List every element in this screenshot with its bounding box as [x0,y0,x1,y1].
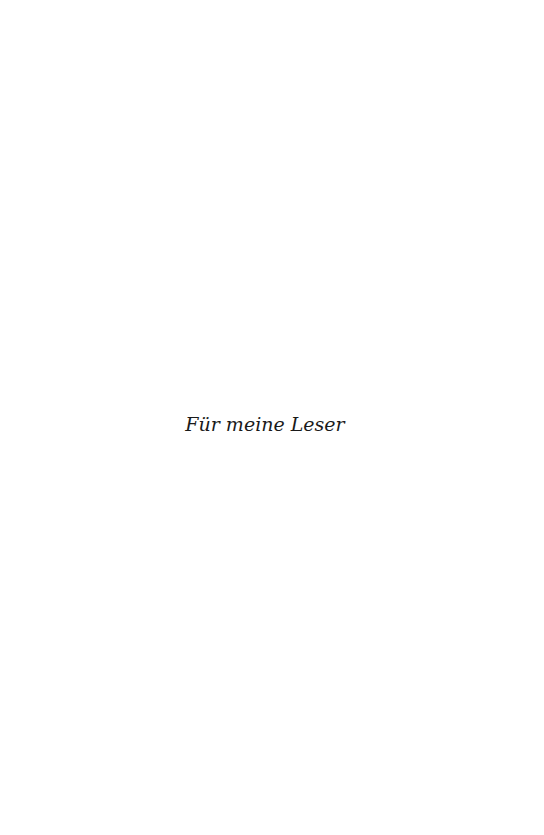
dedication-text: Für meine Leser [0,410,530,438]
book-page: Für meine Leser [0,0,544,835]
